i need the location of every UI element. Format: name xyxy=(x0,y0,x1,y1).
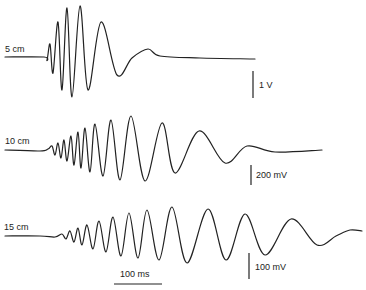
time-scale-label: 100 ms xyxy=(120,269,150,279)
trace-label-5cm: 5 cm xyxy=(5,44,25,54)
voltage-scale-label-100mv: 100 mV xyxy=(255,262,286,272)
waveform-figure: 5 cm 10 cm 15 cm 1 V 200 mV 100 mV 100 m… xyxy=(0,0,366,290)
voltage-scale-label-200mv: 200 mV xyxy=(256,170,287,180)
trace-label-15cm: 15 cm xyxy=(4,222,29,232)
voltage-scale-label-1v: 1 V xyxy=(259,80,273,90)
trace-15cm xyxy=(5,207,362,263)
trace-5cm xyxy=(5,6,255,97)
trace-label-10cm: 10 cm xyxy=(5,136,30,146)
